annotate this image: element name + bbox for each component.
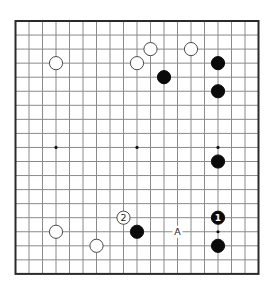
white-stone	[90, 239, 103, 252]
black-stone	[211, 155, 224, 168]
board-marks: A	[173, 226, 183, 238]
black-stone-disc	[211, 155, 224, 168]
star-point	[135, 146, 138, 149]
white-stone-disc	[90, 239, 103, 252]
white-stone	[184, 43, 197, 56]
white-stone-disc	[49, 225, 62, 238]
star-point	[216, 146, 219, 149]
move-number: 1	[215, 213, 221, 223]
black-stone	[211, 85, 224, 98]
star-point	[54, 146, 57, 149]
white-stone-disc	[130, 57, 143, 70]
board-mark-a: A	[173, 226, 183, 238]
star-point	[216, 230, 219, 233]
white-stone	[49, 225, 62, 238]
black-stone-disc	[211, 57, 224, 70]
white-stone-disc	[184, 43, 197, 56]
black-stone-disc	[157, 71, 170, 84]
black-stone-move-1: 1	[211, 211, 224, 224]
white-stone-disc	[49, 57, 62, 70]
white-stone	[144, 43, 157, 56]
mark-label: A	[174, 226, 181, 237]
white-stone-move-2: 2	[117, 211, 130, 224]
black-stone-disc	[211, 239, 224, 252]
black-stone	[130, 225, 143, 238]
black-stone	[157, 71, 170, 84]
white-stone-disc	[144, 43, 157, 56]
black-stone	[211, 239, 224, 252]
black-stone-disc	[130, 225, 143, 238]
black-stone	[211, 57, 224, 70]
go-board: A 12	[0, 0, 272, 294]
move-number: 2	[120, 212, 126, 223]
white-stone	[49, 57, 62, 70]
white-stone	[130, 57, 143, 70]
go-board-diagram: A 12	[0, 0, 272, 294]
black-stone-disc	[211, 85, 224, 98]
